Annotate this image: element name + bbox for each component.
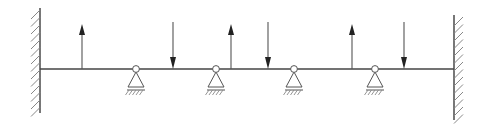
arrow-up-icon xyxy=(79,24,85,69)
pin-support-icon xyxy=(284,66,304,95)
pin-supports xyxy=(126,66,385,95)
beam-diagram xyxy=(0,0,490,126)
pin-support-icon xyxy=(126,66,146,95)
arrow-down-icon xyxy=(265,22,271,69)
fixed-wall-left xyxy=(31,8,40,117)
fixed-walls xyxy=(31,8,463,124)
arrow-down-icon xyxy=(401,22,407,69)
arrow-up-icon xyxy=(349,24,355,69)
pin-support-icon xyxy=(206,66,226,95)
pin-support-icon xyxy=(365,66,385,95)
point-loads xyxy=(79,22,407,69)
fixed-wall-right xyxy=(454,15,463,124)
arrow-up-icon xyxy=(228,24,234,69)
arrow-down-icon xyxy=(170,22,176,69)
